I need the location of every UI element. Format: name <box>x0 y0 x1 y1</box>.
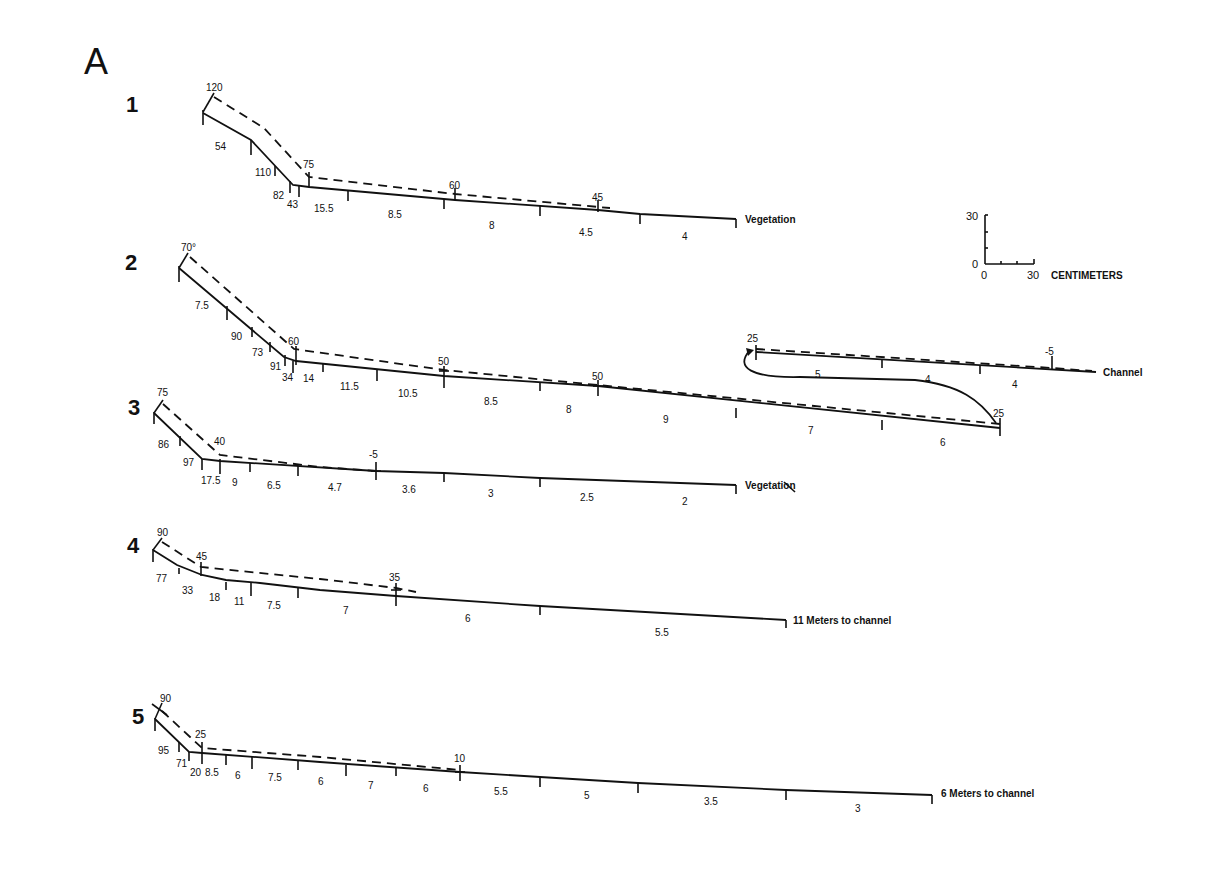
crest-angle: -5 <box>1045 346 1054 357</box>
segment-value: 8.5 <box>484 396 498 407</box>
crest-angle: 75 <box>303 159 315 170</box>
crest-angle: 60 <box>288 336 300 347</box>
crest-angle: 25 <box>195 729 207 740</box>
end-label: 11 Meters to channel <box>793 615 892 626</box>
segment-value: 11 <box>234 596 245 607</box>
segment-value: 6 <box>423 783 429 794</box>
segment-value: 5.5 <box>655 627 669 638</box>
profile-number: 2 <box>125 250 137 275</box>
panel-label: A <box>84 41 108 82</box>
end-label: Vegetation <box>745 214 796 225</box>
crest-angle: 40 <box>214 436 226 447</box>
segment-value: 34 <box>282 372 294 383</box>
segment-value: 6.5 <box>267 480 281 491</box>
segment-value: 90 <box>231 331 243 342</box>
end-label: Vegetation <box>745 480 796 491</box>
segment-value: 4 <box>1012 379 1018 390</box>
segment-value: 97 <box>183 457 195 468</box>
crest-angle: 50 <box>438 356 450 367</box>
segment-value: 15.5 <box>314 203 334 214</box>
segment-value: 17.5 <box>201 475 221 486</box>
segment-value: 43 <box>287 199 299 210</box>
scale-unit: CENTIMETERS <box>1051 270 1123 281</box>
profile-4: 4 90 45 35 77 33 18 11 7.5 7 6 5.5 11 Me… <box>127 527 892 638</box>
crest-angle: 45 <box>196 551 208 562</box>
segment-value: 71 <box>176 758 188 769</box>
profile-2: 2 70° 60 50 50 25 7.5 90 73 91 34 <box>125 242 1143 448</box>
crest-angle: 90 <box>160 693 172 704</box>
segment-value: 18 <box>209 592 221 603</box>
end-label: Channel <box>1103 367 1143 378</box>
segment-value: 5.5 <box>494 786 508 797</box>
crest-angle: 10 <box>454 753 466 764</box>
crest-angle: 90 <box>157 527 169 538</box>
profile-3: 3 75 40 -5 86 97 17.5 9 6.5 4.7 3.6 3 2.… <box>128 387 796 507</box>
segment-value: 82 <box>273 190 285 201</box>
crest-angle: 35 <box>389 572 401 583</box>
segment-value: 8 <box>489 220 495 231</box>
segment-value: 95 <box>158 745 170 756</box>
scale-x-zero: 0 <box>981 269 987 281</box>
segment-value: 14 <box>303 373 315 384</box>
segment-value: 4 <box>925 374 931 385</box>
crest-angle: 50 <box>592 371 604 382</box>
profile-diagram: A 30 0 0 30 CENTIMETERS 1 <box>0 0 1217 870</box>
end-label: 6 Meters to channel <box>941 788 1035 799</box>
segment-value: 77 <box>156 573 168 584</box>
crest-angle: 60 <box>449 180 461 191</box>
crest-angle: 25 <box>993 408 1005 419</box>
profile-number: 3 <box>128 395 140 420</box>
scale-y-top: 30 <box>966 210 978 222</box>
segment-value: 6 <box>465 613 471 624</box>
segment-value: 3.5 <box>704 796 718 807</box>
segment-value: 6 <box>318 776 324 787</box>
segment-value: 6 <box>940 437 946 448</box>
profile-number: 4 <box>127 533 140 558</box>
profile-5: 5 90 25 10 95 71 20 8.5 6 7.5 6 7 6 5.5 … <box>132 693 1035 814</box>
segment-value: 86 <box>158 439 170 450</box>
segment-value: 4.7 <box>328 482 342 493</box>
segment-value: 7 <box>368 780 374 791</box>
profile-1: 1 120 75 60 45 54 110 82 43 15.5 8.5 8 4… <box>126 82 796 242</box>
segment-value: 7.5 <box>267 600 281 611</box>
crest-angle: 120 <box>206 82 223 93</box>
segment-value: 7 <box>343 605 349 616</box>
segment-value: 8.5 <box>205 767 219 778</box>
segment-value: 10.5 <box>398 388 418 399</box>
segment-value: 2.5 <box>580 492 594 503</box>
segment-value: 54 <box>215 141 227 152</box>
segment-value: 7 <box>808 425 814 436</box>
segment-value: 9 <box>663 414 669 425</box>
segment-value: 8.5 <box>388 209 402 220</box>
profile-number: 1 <box>126 92 138 117</box>
segment-value: 20 <box>190 767 202 778</box>
segment-value: 2 <box>682 496 688 507</box>
profile-2-continuation: 25 -5 5 4 4 Channel <box>744 333 1142 423</box>
segment-value: 4.5 <box>579 227 593 238</box>
scale-bar: 30 0 0 30 CENTIMETERS <box>966 210 1123 281</box>
segment-value: 91 <box>270 361 282 372</box>
segment-value: 3 <box>855 803 861 814</box>
segment-value: 11.5 <box>340 381 359 392</box>
crest-angle: 45 <box>592 192 604 203</box>
scale-x-end: 30 <box>1027 269 1039 281</box>
segment-value: 5 <box>815 369 821 380</box>
segment-value: 5 <box>584 790 590 801</box>
segment-value: 3 <box>488 488 494 499</box>
segment-value: 4 <box>682 231 688 242</box>
segment-value: 33 <box>182 585 194 596</box>
segment-value: 7.5 <box>268 772 282 783</box>
segment-value: 7.5 <box>195 300 209 311</box>
crest-angle: -5 <box>369 449 378 460</box>
segment-value: 73 <box>252 347 264 358</box>
segment-value: 8 <box>566 404 572 415</box>
profile-number: 5 <box>132 704 144 729</box>
segment-value: 3.6 <box>402 484 416 495</box>
segment-value: 110 <box>255 167 271 178</box>
crest-angle: 70° <box>181 242 196 253</box>
segment-value: 9 <box>232 477 238 488</box>
crest-angle: 75 <box>157 387 169 398</box>
scale-y-zero: 0 <box>972 258 978 270</box>
segment-value: 6 <box>235 770 241 781</box>
crest-angle: 25 <box>747 333 759 344</box>
